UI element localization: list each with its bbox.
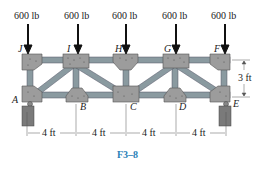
node-label-H: H <box>115 43 122 54</box>
load-label-G: 600 lb <box>162 10 187 21</box>
load-label-H: 600 lb <box>112 10 137 21</box>
load-label-I: 600 lb <box>64 10 89 21</box>
span-label-1: 4 ft <box>42 127 56 138</box>
support-block-E <box>219 106 231 126</box>
load-arrows <box>24 24 229 54</box>
node-label-B: B <box>80 101 86 112</box>
node-label-D: D <box>179 101 186 112</box>
load-label-F: 600 lb <box>211 10 236 21</box>
height-dimension-label: 3 ft <box>238 72 252 83</box>
figure-caption: F3–8 <box>117 149 138 160</box>
node-label-F: F <box>214 43 220 54</box>
node-label-G: G <box>164 43 171 54</box>
node-label-J: J <box>18 43 22 54</box>
node-label-I: I <box>67 43 70 54</box>
span-label-4: 4 ft <box>192 127 206 138</box>
span-label-2: 4 ft <box>92 127 106 138</box>
support-block-A <box>22 106 34 126</box>
load-label-J: 600 lb <box>14 10 39 21</box>
node-label-A: A <box>12 94 18 105</box>
span-label-3: 4 ft <box>142 127 156 138</box>
node-label-E: E <box>233 98 239 109</box>
supports <box>22 102 231 127</box>
node-label-C: C <box>130 101 137 112</box>
